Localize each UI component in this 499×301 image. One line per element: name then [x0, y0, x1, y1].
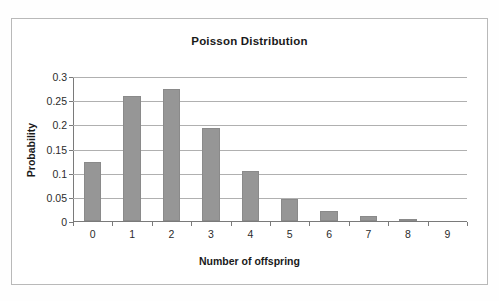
x-axis-tick: [112, 222, 113, 226]
x-axis-tick-label: 0: [90, 228, 96, 240]
bar: [123, 96, 140, 221]
y-axis-tick-label: 0.05: [47, 192, 67, 204]
bar-series: [73, 77, 467, 222]
x-axis-tick-label: 1: [129, 228, 135, 240]
y-axis-tick-label: 0.2: [52, 119, 67, 131]
bar: [399, 219, 416, 221]
x-axis-title: Number of offspring: [12, 255, 487, 267]
x-axis-tick: [349, 222, 350, 226]
chart-container: Poisson Distribution Probability 00.050.…: [11, 18, 488, 285]
x-axis-tick: [152, 222, 153, 226]
x-axis-tick-label: 3: [208, 228, 214, 240]
x-axis-tick: [388, 222, 389, 226]
x-axis-tick: [270, 222, 271, 226]
y-axis-tick-label: 0.25: [47, 95, 67, 107]
x-axis-tick: [191, 222, 192, 226]
y-axis-title-label: Probability: [25, 122, 37, 176]
bar: [281, 199, 298, 221]
x-axis-tick: [309, 222, 310, 226]
x-axis-tick-label: 5: [287, 228, 293, 240]
x-axis-tick: [428, 222, 429, 226]
bar: [320, 211, 337, 221]
y-axis-tick-label: 0.15: [47, 144, 67, 156]
y-axis-tick-label: 0: [61, 216, 67, 228]
x-axis-tick: [467, 222, 468, 226]
bar: [242, 171, 259, 221]
x-axis-tick: [231, 222, 232, 226]
x-axis-tick-label: 6: [326, 228, 332, 240]
bar: [163, 89, 180, 221]
x-axis-tick-label: 2: [169, 228, 175, 240]
bar: [202, 128, 219, 221]
chart-title: Poisson Distribution: [12, 35, 487, 47]
y-axis-tick-label: 0.3: [52, 71, 67, 83]
plot-area: 00.050.10.150.20.250.3 0123456789: [73, 77, 467, 222]
bar: [84, 162, 101, 221]
x-axis-tick-label: 4: [247, 228, 253, 240]
x-axis-tick: [73, 222, 74, 226]
scanned-page: Poisson Distribution Probability 00.050.…: [0, 0, 499, 301]
x-axis-tick-label: 8: [405, 228, 411, 240]
x-axis-tick-label: 9: [444, 228, 450, 240]
bar: [360, 216, 377, 221]
x-axis-tick-label: 7: [366, 228, 372, 240]
y-axis-tick-label: 0.1: [52, 168, 67, 180]
y-axis-title: Probability: [24, 77, 38, 222]
